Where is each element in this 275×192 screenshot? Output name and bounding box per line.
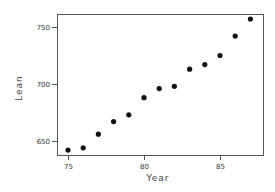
data-point: [202, 62, 207, 67]
data-point: [126, 112, 131, 117]
y-tick-label: 750: [37, 24, 50, 32]
x-axis-title: Year: [145, 173, 169, 183]
scatter-chart: 650700750 758085 Year Lean: [0, 0, 275, 192]
x-tick-label: 80: [140, 163, 149, 171]
y-axis-title: Lean: [14, 75, 24, 101]
data-point: [248, 16, 253, 21]
data-point: [81, 145, 86, 150]
plot-area: [58, 15, 264, 156]
data-point: [141, 95, 146, 100]
data-point: [172, 84, 177, 89]
data-point: [233, 34, 238, 39]
y-tick-label: 650: [37, 138, 50, 146]
data-point: [157, 86, 162, 91]
y-tick-label: 700: [37, 81, 50, 89]
data-point: [111, 119, 116, 124]
x-tick-label: 75: [64, 163, 73, 171]
data-point: [65, 148, 70, 153]
data-point: [217, 53, 222, 58]
x-tick-label: 85: [216, 163, 225, 171]
y-axis: 650700750: [37, 24, 57, 146]
x-axis: 758085: [64, 155, 225, 171]
data-point: [187, 67, 192, 72]
data-points: [65, 16, 253, 152]
data-point: [96, 132, 101, 137]
